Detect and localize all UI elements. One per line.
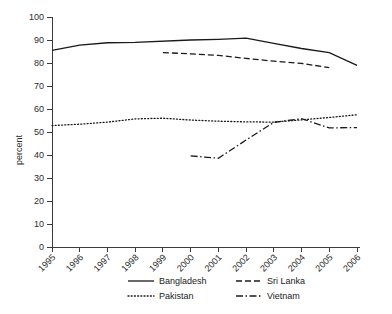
y-tick-label: 100 — [29, 12, 44, 22]
x-tick-label: 2006 — [341, 252, 362, 273]
x-tick-label: 1998 — [119, 252, 140, 273]
chart-canvas: percent 0102030405060708090100 199519961… — [0, 0, 392, 314]
x-tick-label: 1995 — [36, 252, 57, 273]
x-tick-label: 2003 — [258, 252, 279, 273]
y-tick-label: 70 — [34, 81, 44, 91]
y-axis-title-group: percent — [14, 134, 24, 165]
x-tick-label: 1999 — [147, 252, 168, 273]
y-tick-label: 90 — [34, 35, 44, 45]
chart-legend: BangladeshSri LankaPakistanVietnam — [128, 276, 305, 301]
y-tick-label: 0 — [39, 242, 44, 252]
series-layer — [52, 38, 357, 158]
x-tick-label: 1996 — [64, 252, 85, 273]
x-tick-label: 2002 — [230, 252, 251, 273]
x-tick-label: 2004 — [286, 252, 307, 273]
y-tick-label: 40 — [34, 150, 44, 160]
y-tick-label: 30 — [34, 173, 44, 183]
y-axis-title: percent — [14, 134, 24, 165]
x-tick-label: 1997 — [92, 252, 113, 273]
y-tick-label: 20 — [34, 196, 44, 206]
y-axis: 0102030405060708090100 — [29, 12, 52, 252]
legend-label-bangladesh: Bangladesh — [159, 276, 207, 286]
line-chart: percent 0102030405060708090100 199519961… — [0, 0, 392, 314]
y-tick-label: 10 — [34, 219, 44, 229]
series-line-sri-lanka — [163, 53, 329, 68]
series-line-bangladesh — [52, 38, 357, 65]
y-tick-label: 80 — [34, 58, 44, 68]
legend-label-sri-lanka: Sri Lanka — [267, 276, 305, 286]
y-tick-label: 50 — [34, 127, 44, 137]
legend-label-vietnam: Vietnam — [267, 291, 300, 301]
y-tick-label: 60 — [34, 104, 44, 114]
x-axis: 1995199619971998199920002001200220032004… — [36, 247, 362, 274]
legend-label-pakistan: Pakistan — [159, 291, 194, 301]
series-line-vietnam — [191, 119, 357, 159]
x-tick-label: 2001 — [203, 252, 224, 273]
x-tick-label: 2000 — [175, 252, 196, 273]
series-line-pakistan — [52, 115, 357, 126]
x-tick-label: 2005 — [313, 252, 334, 273]
